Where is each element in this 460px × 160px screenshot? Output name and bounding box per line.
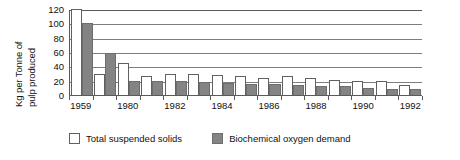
bar-total-suspended-solids [305, 78, 316, 95]
x-axis-tick-labels: 19591980198219841986198819901992 [69, 100, 422, 114]
bar-biochemical-oxygen-demand [176, 81, 187, 95]
y-axis-tick-label: 0 [59, 91, 64, 101]
bar-total-suspended-solids [282, 76, 293, 95]
bar-group [375, 10, 398, 95]
bar-group [117, 10, 140, 95]
x-axis-tick-label: 1984 [211, 100, 232, 111]
bar-biochemical-oxygen-demand [223, 83, 234, 95]
y-axis-tick-label: 20 [53, 77, 64, 87]
bar-group [211, 10, 234, 95]
bar-group [352, 10, 375, 95]
x-axis-tick-label: 1988 [306, 100, 327, 111]
bar-group [234, 10, 257, 95]
bar-total-suspended-solids [329, 80, 340, 95]
bar-group [328, 10, 351, 95]
y-axis-title: Kg per Tonne of pulp produced [0, 6, 34, 110]
open-square-icon [69, 133, 80, 144]
bar-biochemical-oxygen-demand [105, 53, 116, 95]
bar-total-suspended-solids [376, 81, 387, 95]
bar-total-suspended-solids [258, 78, 269, 95]
bar-total-suspended-solids [141, 76, 152, 95]
bar-total-suspended-solids [188, 74, 199, 95]
bar-total-suspended-solids [71, 9, 82, 95]
x-axis-tick-mark [422, 96, 423, 100]
bar-biochemical-oxygen-demand [363, 88, 374, 95]
bar-group [281, 10, 304, 95]
y-axis-tick-label: 120 [48, 5, 64, 15]
bar-group [164, 10, 187, 95]
x-axis-tick-label: 1990 [353, 100, 374, 111]
bar-chart-figure: Kg per Tonne of pulp produced 1201008060… [0, 0, 460, 160]
bar-group [140, 10, 163, 95]
bar-biochemical-oxygen-demand [410, 89, 421, 95]
bar-biochemical-oxygen-demand [269, 84, 280, 95]
bar-total-suspended-solids [235, 76, 246, 95]
bar-group [70, 10, 93, 95]
bar-group [187, 10, 210, 95]
bar-groups [70, 10, 422, 95]
bar-biochemical-oxygen-demand [199, 82, 210, 95]
bar-biochemical-oxygen-demand [340, 86, 351, 95]
chart-legend: Total suspended solids Biochemical oxyge… [69, 129, 439, 147]
bar-group [399, 10, 422, 95]
bar-total-suspended-solids [212, 75, 223, 95]
y-axis-tick-label: 100 [48, 20, 64, 30]
x-axis-tick-label: 1992 [400, 100, 421, 111]
plot-area [69, 10, 422, 96]
bar-biochemical-oxygen-demand [387, 89, 398, 95]
bar-total-suspended-solids [399, 85, 410, 95]
bar-total-suspended-solids [165, 74, 176, 96]
y-axis-tick-labels: 120100806040200 [36, 10, 66, 96]
x-axis-tick-label: 1980 [117, 100, 138, 111]
bar-group [93, 10, 116, 95]
bar-biochemical-oxygen-demand [246, 84, 257, 95]
legend-label-biochemical-oxygen-demand: Biochemical oxygen demand [229, 133, 350, 144]
y-axis-tick-label: 40 [53, 63, 64, 73]
bar-total-suspended-solids [352, 81, 363, 95]
x-axis-tick-label: 1986 [258, 100, 279, 111]
x-axis-tick-label: 1959 [70, 100, 91, 111]
y-axis-tick-label: 60 [53, 48, 64, 58]
legend-item-biochemical-oxygen-demand: Biochemical oxygen demand [212, 133, 350, 144]
legend-item-total-suspended-solids: Total suspended solids [69, 133, 182, 144]
y-axis-tick-label: 80 [53, 34, 64, 44]
bar-biochemical-oxygen-demand [316, 86, 327, 95]
filled-square-icon [212, 133, 223, 144]
bar-biochemical-oxygen-demand [129, 81, 140, 95]
bar-biochemical-oxygen-demand [152, 81, 163, 95]
legend-label-total-suspended-solids: Total suspended solids [86, 133, 182, 144]
bar-group [258, 10, 281, 95]
bar-group [305, 10, 328, 95]
y-axis-title-line-1: Kg per Tonne of [13, 42, 24, 107]
bar-total-suspended-solids [118, 63, 129, 95]
bar-biochemical-oxygen-demand [293, 85, 304, 95]
bar-total-suspended-solids [94, 74, 105, 95]
bar-biochemical-oxygen-demand [82, 23, 93, 95]
x-axis-tick-label: 1982 [164, 100, 185, 111]
